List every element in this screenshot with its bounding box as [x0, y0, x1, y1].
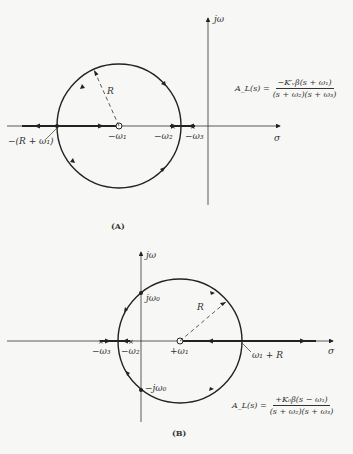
root-locus-diagrams: × × × × [0, 0, 353, 454]
arrow-left-icon [34, 124, 40, 129]
breakin-label-a: −(R + ω₁) [8, 136, 54, 146]
pole-mark-icon: × [190, 123, 196, 131]
crossing-down-label-b: −jω₀ [145, 383, 166, 393]
sigma-axis-label-b: σ [328, 346, 334, 356]
crossing-up-point-b [139, 291, 143, 295]
figure-a: × × [7, 18, 280, 205]
pole2-label-b: −ω₂ [121, 346, 140, 356]
arrow-right-icon [300, 339, 306, 344]
zero-label-b: +ω₁ [170, 346, 189, 356]
breakin-label-b: ω₁ + R [252, 350, 283, 360]
breakin-leader-b [242, 343, 251, 352]
arrow-right-icon [98, 124, 104, 129]
crossing-down-point-b [139, 388, 143, 392]
pole-mark-icon: × [98, 338, 104, 346]
breakin-point-a [55, 124, 59, 128]
arrow-icon [70, 158, 75, 163]
crossing-up-label-b: jω₀ [146, 293, 160, 303]
arrow-icon [210, 291, 215, 295]
arrow-left-icon [207, 339, 213, 344]
pole2-label-a: −ω₂ [154, 131, 173, 141]
zero-label-a: −ω₁ [108, 131, 127, 141]
pole-mark-icon: × [128, 338, 134, 346]
tf-lhs-b: A_L(s) = [232, 401, 267, 410]
arrow-icon [209, 387, 214, 391]
tf-denominator-a: (s + ω₂)(s + ω₃) [273, 89, 337, 99]
arrow-right-icon [105, 339, 111, 344]
radius-arrow-icon [220, 302, 226, 306]
jw-axis-label-b: jω [146, 250, 156, 260]
caption-a: (A) [111, 221, 125, 231]
pole3-label-b: −ω₃ [92, 346, 111, 356]
pole-mark-icon: × [170, 123, 176, 131]
arrow-icon [80, 84, 85, 89]
tf-lhs-a: A_L(s) = [235, 84, 270, 93]
sigma-axis-label-a: σ [274, 133, 280, 143]
radius-line-a [94, 70, 119, 126]
tf-numerator-b: +K₀β(s − ω₁) [273, 395, 329, 406]
transfer-function-a: A_L(s) = −K′ᵥβ(s + ω₁) (s + ω₂)(s + ω₃) [235, 78, 336, 99]
radius-label-a: R [107, 86, 114, 96]
jw-axis-label-a: jω [214, 14, 224, 24]
radius-label-b: R [197, 302, 204, 312]
tf-numerator-a: −K′ᵥβ(s + ω₁) [276, 78, 334, 89]
transfer-function-b: A_L(s) = +K₀β(s − ω₁) (s + ω₂)(s + ω₃) [232, 395, 333, 416]
tf-denominator-b: (s + ω₂)(s + ω₃) [270, 406, 334, 416]
pole3-label-a: −ω₃ [185, 131, 204, 141]
radius-arrow-icon [94, 70, 99, 76]
caption-b: (B) [172, 428, 186, 438]
